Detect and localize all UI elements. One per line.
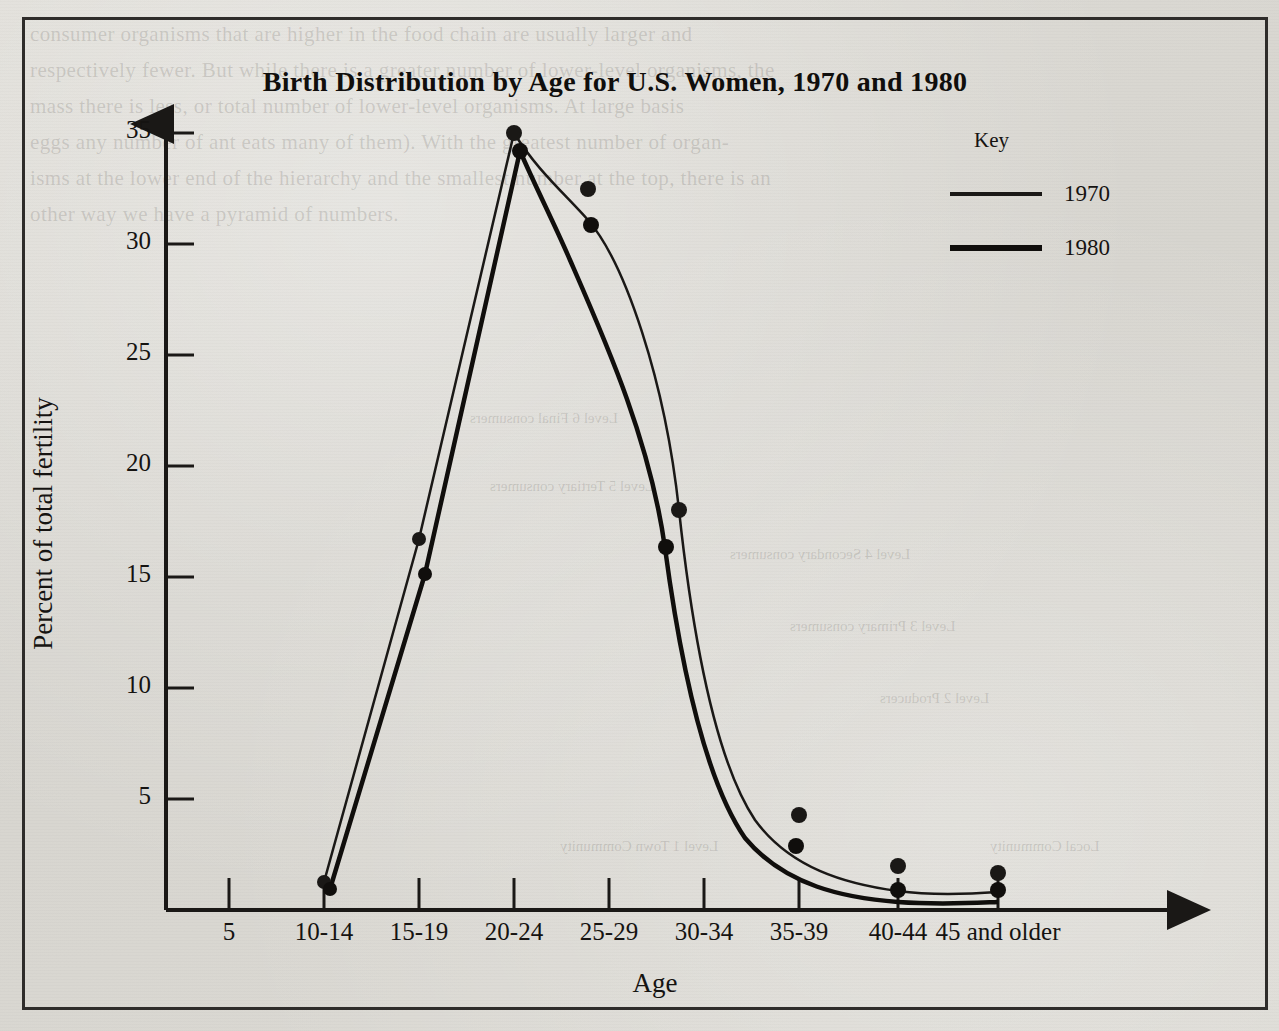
plot-area [25, 20, 1265, 1010]
x-axis-title: Age [585, 968, 725, 999]
series-markers-1980 [323, 143, 1006, 898]
data-point [512, 143, 528, 159]
data-point [890, 882, 906, 898]
x-tick-label: 45 and older [898, 918, 1098, 946]
y-tick-label: 5 [81, 782, 151, 810]
x-tick-marks [229, 878, 998, 910]
data-point [990, 865, 1006, 881]
y-tick-label: 20 [81, 449, 151, 477]
series-markers-1970 [317, 125, 1006, 889]
chart-frame: Birth Distribution by Age for U.S. Women… [22, 17, 1268, 1010]
data-point [506, 125, 522, 141]
data-point [788, 838, 804, 854]
x-tick-label: 5 [189, 918, 269, 946]
data-point [418, 567, 432, 581]
data-point [583, 217, 599, 233]
data-point [658, 539, 674, 555]
data-point [791, 807, 807, 823]
data-point [412, 532, 426, 546]
series-line-1980 [330, 151, 998, 904]
y-tick-label: 15 [81, 560, 151, 588]
data-point [580, 181, 596, 197]
y-axis-title: Percent of total fertility [28, 244, 59, 804]
data-point [990, 882, 1006, 898]
data-point [671, 502, 687, 518]
data-point [323, 882, 337, 896]
data-point [890, 858, 906, 874]
y-tick-marks [166, 133, 194, 799]
y-tick-label: 30 [81, 227, 151, 255]
y-tick-label: 35 [81, 116, 151, 144]
y-tick-label: 10 [81, 671, 151, 699]
y-tick-label: 25 [81, 338, 151, 366]
